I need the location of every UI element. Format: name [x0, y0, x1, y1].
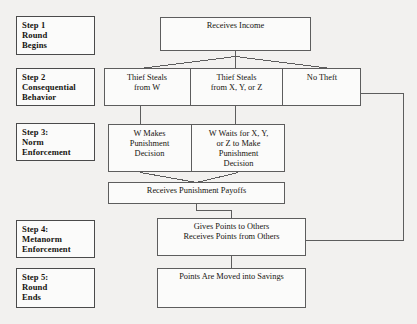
step-1-line-2: Round — [22, 30, 47, 40]
step-box-1: Step 1 Round Begins — [16, 16, 95, 55]
step-4-line-1: Step 4: — [22, 224, 48, 234]
thief-steals-xyz-line-2: from X, Y, or Z — [211, 83, 263, 93]
step-4-line-2: Metanorm — [22, 234, 62, 244]
receives-punishment-payoffs-label: Receives Punishment Payoffs — [147, 186, 246, 196]
w-waits-line-4: Decision — [224, 159, 254, 169]
step-box-3: Step 3: Norm Enforcement — [16, 123, 95, 161]
w-makes-line-1: W Makes — [133, 129, 165, 139]
step-3-line-1: Step 3: — [22, 127, 48, 137]
step-2-line-3: Behavior — [22, 92, 56, 102]
node-thief-steals-w: Thief Steals from W — [104, 70, 190, 93]
thief-steals-w-line-1: Thief Steals — [127, 73, 167, 83]
node-receives-punishment-payoffs: Receives Punishment Payoffs — [108, 182, 285, 204]
node-points-moved-savings: Points Are Moved into Savings — [157, 268, 306, 308]
node-receives-income: Receives Income — [160, 17, 311, 51]
node-w-makes-punishment: W Makes Punishment Decision — [108, 126, 191, 159]
gives-points-line-1: Gives Points to Others — [194, 222, 270, 232]
step-4-line-3: Enforcement — [22, 244, 71, 254]
step-box-4: Step 4: Metanorm Enforcement — [16, 220, 95, 258]
step-3-line-3: Enforcement — [22, 147, 71, 157]
gives-points-line-2: Receives Points from Others — [183, 232, 279, 242]
step-2-line-1: Step 2 — [22, 72, 45, 82]
w-waits-line-2: or Z to Make — [217, 139, 261, 149]
step-3-line-2: Norm — [22, 137, 44, 147]
step-5-line-3: Ends — [22, 292, 41, 302]
step-1-line-1: Step 1 — [22, 20, 45, 30]
node-w-waits-xyz: W Waits for X, Y, or Z to Make Punishmen… — [192, 126, 285, 169]
w-makes-line-3: Decision — [135, 149, 165, 159]
flowchart-canvas: Step 1 Round Begins Step 2 Consequential… — [0, 0, 417, 324]
receives-income-label: Receives Income — [207, 21, 264, 31]
step-5-line-1: Step 5: — [22, 272, 48, 282]
node-gives-receives-points: Gives Points to Others Receives Points f… — [157, 218, 306, 256]
step-5-line-2: Round — [22, 282, 47, 292]
node-thief-steals-xyz: Thief Steals from X, Y, or Z — [191, 70, 282, 93]
w-waits-line-3: Punishment — [219, 149, 259, 159]
step-box-2: Step 2 Consequential Behavior — [16, 68, 95, 106]
node-no-theft: No Theft — [283, 70, 361, 83]
step-2-line-2: Consequential — [22, 82, 76, 92]
step-1-line-3: Begins — [22, 40, 47, 50]
step-box-5: Step 5: Round Ends — [16, 268, 95, 308]
w-makes-line-2: Punishment — [130, 139, 170, 149]
thief-steals-xyz-line-1: Thief Steals — [216, 73, 256, 83]
no-theft-label: No Theft — [307, 73, 337, 83]
points-moved-savings-label: Points Are Moved into Savings — [179, 272, 284, 282]
thief-steals-w-line-2: from W — [134, 83, 160, 93]
w-waits-line-1: W Waits for X, Y, — [209, 129, 269, 139]
